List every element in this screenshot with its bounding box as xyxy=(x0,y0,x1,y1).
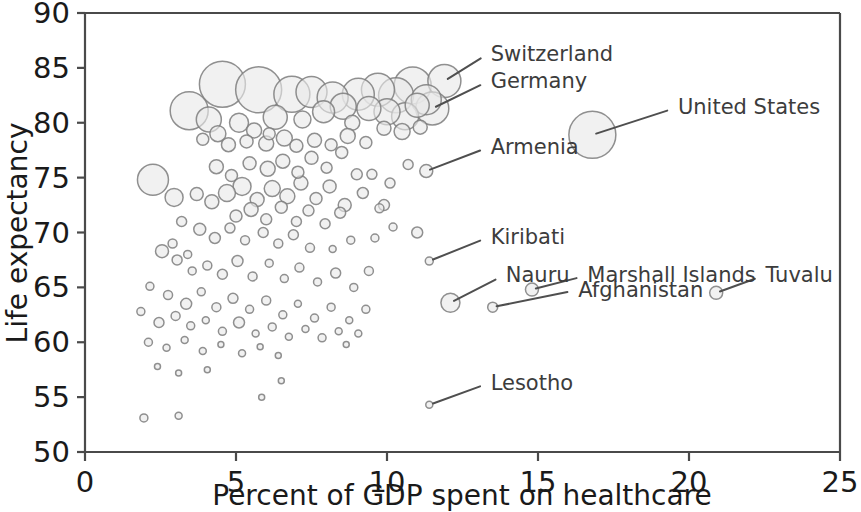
data-point-bubble xyxy=(218,341,224,347)
data-point-bubble xyxy=(209,232,220,243)
annotation-leader-line xyxy=(433,386,480,403)
y-tick-label: 75 xyxy=(33,161,70,195)
data-point-bubble xyxy=(154,318,164,328)
data-point-bubble xyxy=(197,288,205,296)
data-point-bubble xyxy=(144,338,152,346)
data-point-bubble xyxy=(194,223,206,235)
data-point-bubble xyxy=(230,113,249,132)
x-tick-label: 25 xyxy=(822,465,859,499)
annotation-label: Nauru xyxy=(506,263,570,287)
data-point-bubble xyxy=(260,161,275,176)
data-point-bubble xyxy=(318,334,326,342)
data-point-bubble xyxy=(204,367,210,373)
data-point-bubble xyxy=(264,181,280,197)
data-point-bubble xyxy=(275,201,287,213)
data-point-bubble xyxy=(268,323,276,331)
data-point-bubble xyxy=(292,166,304,178)
data-point-bubble xyxy=(276,154,290,168)
data-point-bubble xyxy=(308,133,322,147)
data-point-bubble xyxy=(371,234,379,242)
y-axis-ticks: 505560657075808590 xyxy=(33,0,85,469)
data-point-bubble xyxy=(184,250,192,258)
data-point-bubble xyxy=(405,93,429,117)
data-point-bubble xyxy=(240,135,253,148)
data-point-bubble xyxy=(350,283,358,291)
data-point-bubble xyxy=(351,169,362,180)
data-point-bubble xyxy=(420,165,433,178)
data-point-bubble xyxy=(394,124,410,140)
data-point-bubble xyxy=(425,257,433,265)
data-point-bubble xyxy=(261,214,272,225)
data-point-bubble xyxy=(230,210,242,222)
data-point-bubble xyxy=(156,245,169,258)
data-point-bubble xyxy=(190,188,203,201)
annotation-label: Kiribati xyxy=(491,225,565,249)
data-point-bubble xyxy=(202,317,209,324)
data-point-bubble xyxy=(243,157,256,170)
data-point-bubble xyxy=(137,164,168,195)
data-point-bubble xyxy=(212,303,221,312)
data-point-bubble xyxy=(285,333,292,340)
data-point-bubble xyxy=(188,267,196,275)
data-point-bubble xyxy=(360,137,372,149)
y-tick-label: 70 xyxy=(33,216,70,250)
data-point-bubble xyxy=(258,228,268,238)
data-point-bubble xyxy=(280,275,288,283)
data-point-bubble xyxy=(441,293,460,312)
data-point-bubble xyxy=(291,217,301,227)
y-tick-label: 65 xyxy=(33,270,70,304)
y-tick-label: 85 xyxy=(33,51,70,85)
data-point-bubble xyxy=(263,128,275,140)
data-points-group xyxy=(137,61,723,422)
data-point-bubble xyxy=(199,348,206,355)
data-point-bubble xyxy=(377,121,391,135)
annotation-leader-line xyxy=(454,280,496,301)
y-tick-label: 90 xyxy=(33,0,70,30)
data-point-bubble xyxy=(262,296,271,305)
annotation-label: Tuvalu xyxy=(764,263,832,287)
y-tick-label: 80 xyxy=(33,106,70,140)
data-point-bubble xyxy=(305,151,318,164)
data-point-bubble xyxy=(181,298,192,309)
data-point-bubble xyxy=(364,266,373,275)
data-point-bubble xyxy=(347,236,355,244)
data-point-bubble xyxy=(171,311,180,320)
data-point-bubble xyxy=(176,370,182,376)
data-point-bubble xyxy=(413,120,427,134)
data-point-bubble xyxy=(265,259,273,267)
data-point-bubble xyxy=(305,243,314,252)
data-point-bubble xyxy=(320,219,330,229)
bubble-chart-figure: 505560657075808590 0510152025 Switzerlan… xyxy=(0,0,861,512)
data-point-bubble xyxy=(355,330,362,337)
data-point-bubble xyxy=(294,300,301,307)
data-point-bubble xyxy=(313,101,335,123)
data-point-bubble xyxy=(321,162,332,173)
data-point-bubble xyxy=(203,261,212,270)
annotation-label: Armenia xyxy=(491,135,579,159)
data-point-bubble xyxy=(187,322,195,330)
data-point-bubble xyxy=(164,291,173,300)
data-point-bubble xyxy=(331,268,341,278)
annotation-label: Afghanistan xyxy=(578,278,703,302)
data-point-bubble xyxy=(288,230,298,240)
data-point-bubble xyxy=(362,305,370,313)
data-point-bubble xyxy=(346,317,353,324)
data-point-bubble xyxy=(335,207,346,218)
data-point-bubble xyxy=(314,278,322,286)
annotation-leader-line xyxy=(433,241,480,260)
data-point-bubble xyxy=(218,184,235,201)
data-point-bubble xyxy=(175,412,182,419)
data-point-bubble xyxy=(302,326,309,333)
data-point-bubble xyxy=(343,341,349,347)
data-point-bubble xyxy=(252,330,259,337)
data-point-bubble xyxy=(329,245,336,252)
data-point-bubble xyxy=(323,180,336,193)
data-point-bubble xyxy=(279,311,287,319)
data-point-bubble xyxy=(295,263,304,272)
data-point-bubble xyxy=(375,204,384,213)
data-point-bubble xyxy=(225,169,237,181)
data-point-bubble xyxy=(217,269,227,279)
annotation-label: Switzerland xyxy=(491,42,614,66)
y-tick-label: 50 xyxy=(33,435,70,469)
annotation-label: Germany xyxy=(491,69,588,93)
